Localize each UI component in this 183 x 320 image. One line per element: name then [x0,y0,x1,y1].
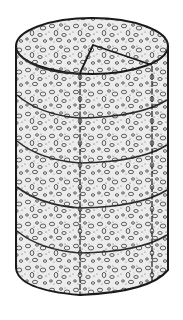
cylinder-body [16,46,168,295]
cylinder-illustration [0,0,183,320]
